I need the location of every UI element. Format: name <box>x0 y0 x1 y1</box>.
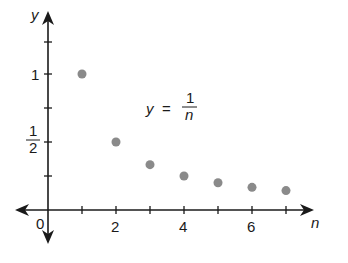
x-tick-label-0: 0 <box>36 215 44 232</box>
y-axis-label: y <box>30 6 40 23</box>
data-point <box>78 70 87 79</box>
data-point <box>146 160 155 169</box>
equation-annotation: y = 1 n <box>145 89 197 123</box>
x-tick-label-4: 4 <box>179 218 187 235</box>
svg-text:1: 1 <box>29 122 37 139</box>
y-axis <box>42 11 54 244</box>
svg-text:1: 1 <box>186 89 194 106</box>
x-tick-label-2: 2 <box>111 218 119 235</box>
svg-text:2: 2 <box>29 139 37 156</box>
data-point <box>282 186 291 195</box>
y-tick-label-half: 1 2 <box>26 122 40 156</box>
svg-text:y: y <box>145 100 155 117</box>
data-point <box>112 138 121 147</box>
svg-text:n: n <box>185 106 193 123</box>
x-tick-label-6: 6 <box>247 218 255 235</box>
svg-text:=: = <box>162 100 171 117</box>
data-point <box>248 183 257 192</box>
data-point <box>214 178 223 187</box>
x-axis <box>15 204 314 216</box>
chart: y n 0 2 4 6 1 1 2 y = 1 n <box>0 0 348 263</box>
x-axis-label: n <box>311 214 319 231</box>
data-points <box>78 70 291 196</box>
data-point <box>180 172 189 181</box>
y-tick-label-1: 1 <box>31 66 39 83</box>
